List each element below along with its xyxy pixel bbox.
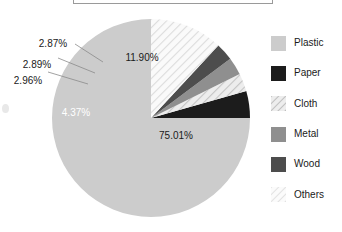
- slice-label-wood: 2.87%: [39, 38, 67, 49]
- legend-label-others: Others: [294, 190, 324, 200]
- legend-label-paper: Paper: [294, 68, 321, 78]
- legend-label-cloth: Cloth: [294, 99, 317, 109]
- legend-swatch-cloth: [271, 96, 286, 111]
- slice-label-others: 11.90%: [125, 52, 158, 63]
- legend-item-paper[interactable]: Paper: [271, 58, 342, 88]
- legend-item-cloth[interactable]: Cloth: [271, 89, 342, 119]
- legend-item-metal[interactable]: Metal: [271, 119, 342, 149]
- pie-chart-figure: 75.01% 4.37% 2.96% 2.89% 2.87% 11.90% Pl…: [0, 0, 342, 232]
- legend-label-plastic: Plastic: [294, 38, 323, 48]
- legend-swatch-wood: [271, 157, 286, 172]
- legend-item-wood[interactable]: Wood: [271, 149, 342, 179]
- legend-swatch-others: [271, 187, 286, 202]
- legend: Plastic Paper Cloth Metal Wood Others: [271, 28, 342, 210]
- slice-label-cloth: 2.96%: [14, 75, 42, 86]
- legend-swatch-metal: [271, 127, 286, 142]
- legend-swatch-plastic: [271, 36, 286, 51]
- legend-item-others[interactable]: Others: [271, 179, 342, 209]
- legend-label-wood: Wood: [294, 159, 320, 169]
- slice-label-paper: 4.37%: [62, 107, 90, 118]
- slice-label-metal: 2.89%: [23, 59, 51, 70]
- legend-swatch-paper: [271, 66, 286, 81]
- legend-label-metal: Metal: [294, 129, 318, 139]
- slice-label-plastic: 75.01%: [159, 130, 193, 141]
- legend-item-plastic[interactable]: Plastic: [271, 28, 342, 58]
